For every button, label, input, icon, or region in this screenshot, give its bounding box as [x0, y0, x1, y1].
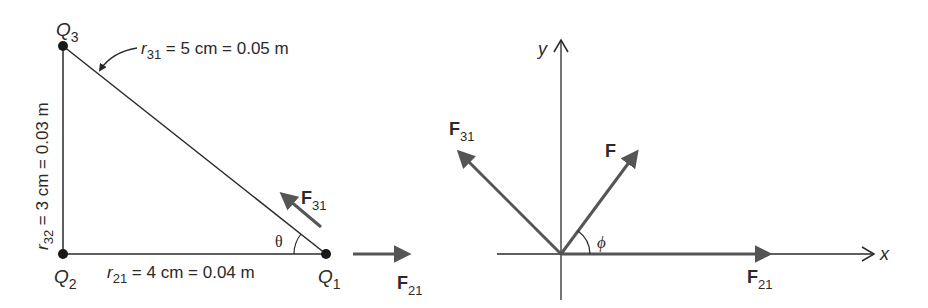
r31-label: r31 = 5 cm = 0.05 m [141, 39, 289, 62]
charge-q2-dot [58, 249, 68, 259]
charge-q1-dot [321, 249, 331, 259]
resultant-force-label: F [605, 141, 616, 161]
theta-label: θ [275, 233, 283, 250]
force-f21-vector-label: F21 [747, 267, 772, 292]
side-r31 [63, 46, 326, 254]
charge-q2-label: Q2 [54, 266, 77, 292]
charge-q1-label: Q1 [318, 266, 341, 292]
charge-triangle-figure: Q3 Q2 Q1 r31 = 5 cm = 0.05 m r32 = 3 cm … [33, 19, 422, 298]
y-axis-label: y [536, 39, 548, 59]
phi-arc [578, 231, 590, 254]
r32-label: r32 = 3 cm = 0.03 m [33, 102, 56, 250]
phi-label: ϕ [597, 233, 606, 252]
charge-q3-label: Q3 [56, 19, 79, 45]
r21-label: r21 = 4 cm = 0.04 m [107, 263, 255, 286]
force-f31-label: F31 [301, 188, 326, 213]
coulomb-force-diagram: Q3 Q2 Q1 r31 = 5 cm = 0.05 m r32 = 3 cm … [0, 0, 928, 308]
charge-q3-dot [58, 41, 68, 51]
force-f21-label: F21 [397, 273, 422, 298]
x-axis-label: x [879, 244, 890, 264]
theta-arc [294, 234, 301, 254]
force-f31-vector [460, 153, 561, 254]
force-f31-vector-label: F31 [449, 119, 474, 144]
r31-leader-arrow [100, 48, 137, 70]
force-vector-figure: x y F21 F31 F ϕ [449, 39, 890, 300]
